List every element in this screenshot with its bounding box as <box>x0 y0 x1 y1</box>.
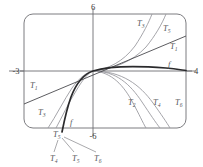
curve-label-T3-top: T3 <box>137 18 145 29</box>
curve-label-T5-callout: T5 <box>53 129 61 140</box>
curve-label-T1-left: T1 <box>30 80 38 91</box>
callout-leader-T4 <box>54 140 58 152</box>
curve-label-T6-bottom: T6 <box>175 97 183 108</box>
curve-label-f-bottom: f <box>70 117 74 127</box>
curve-label-f-right: f <box>168 59 172 69</box>
curve-label-T3-left: T3 <box>38 107 46 118</box>
callout-leader-T5 <box>62 138 74 152</box>
axis-label-bottom: -6 <box>89 131 96 141</box>
curve-label-T4-callout: T4 <box>50 153 58 164</box>
curve-label-group: T3T5T1fT1T3fT2T4T6T5 <box>30 18 183 140</box>
curve-label-T5-callout-bottom: T5 <box>72 153 80 164</box>
axis-label-right: 4 <box>194 66 199 76</box>
curve-label-T1-right: T1 <box>170 41 178 52</box>
curve-f <box>62 66 186 132</box>
figure-svg: 6 -3 4 -6 T3T5T1fT1T3fT2T4T6T5 T4T5T6 <box>0 0 203 167</box>
taylor-polynomial-figure: 6 -3 4 -6 T3T5T1fT1T3fT2T4T6T5 T4T5T6 <box>0 0 203 167</box>
curve-label-T5-top: T5 <box>163 23 171 34</box>
curve-T1 <box>24 36 186 104</box>
curve-T2 <box>93 71 146 128</box>
axis-label-left: -3 <box>12 66 19 76</box>
callout-label-group: T4T5T6 <box>50 153 102 164</box>
curve-label-T4-bottom: T4 <box>153 97 161 108</box>
curve-label-T6-callout: T6 <box>94 153 102 164</box>
axis-label-top: 6 <box>91 2 95 12</box>
curve-label-T2-bottom: T2 <box>128 97 136 108</box>
